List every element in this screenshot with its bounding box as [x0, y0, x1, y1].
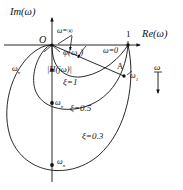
nyquist-polar-plot-figure: Im(ω) Re(ω) O 1 ω=∞ φ(ω1) ω=0 ωn |H(jω)|… — [0, 0, 183, 190]
omega-infinity-leader — [58, 35, 72, 44]
imaginary-axis-label: Im(ω) — [10, 7, 36, 18]
point-omega-n-zeta-0.3 — [50, 163, 54, 167]
omega-n-lower-subscript: n — [63, 163, 65, 168]
omega-1-subscript: 1 — [136, 77, 138, 82]
omega-direction-label: ω — [154, 63, 160, 72]
phase-angle-label: φ(ω1) — [63, 48, 83, 59]
point-A-label: A — [117, 62, 123, 71]
omega-1-label: ω1 — [130, 72, 138, 83]
real-axis-label: Re(ω) — [142, 29, 167, 40]
point-A-marker — [122, 74, 125, 77]
omega-n-label-upper: ωn — [12, 65, 20, 76]
phase-angle-text: φ(ω — [63, 47, 77, 57]
omega-n-mid-subscript: n — [61, 104, 63, 109]
phase-angle-paren: ) — [80, 47, 83, 57]
real-axis-tick-label: 1 — [126, 30, 131, 39]
origin-label: O — [39, 35, 46, 45]
omega-n-label-mid: ωn — [55, 99, 63, 110]
curve-label-zeta-03: ξ=0.3 — [82, 132, 103, 141]
omega-n-upper-subscript: n — [18, 70, 20, 75]
omega-infinity-label: ω=∞ — [57, 27, 73, 35]
curve-label-zeta-05: ξ=0.5 — [70, 104, 91, 113]
curve-label-zeta-1: ξ=1 — [63, 78, 77, 87]
point-omega-n-zeta-0.5 — [50, 101, 54, 105]
origin-branch-tick-b — [52, 45, 60, 52]
omega-n-label-lower: ωn — [57, 158, 65, 169]
omega-zero-label: ω=0 — [103, 47, 118, 55]
magnitude-label: |H(jω)| — [47, 65, 72, 74]
